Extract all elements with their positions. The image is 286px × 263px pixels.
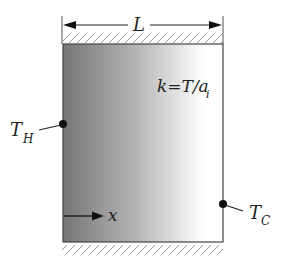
heat-conduction-diagram: L k=T/a i T H T C x bbox=[0, 0, 286, 263]
hot-point-icon bbox=[59, 120, 67, 128]
arrow-left-icon bbox=[63, 21, 76, 29]
hot-temp-label: T bbox=[10, 119, 24, 140]
equation-subscript: i bbox=[206, 88, 210, 101]
cold-temp-subscript: C bbox=[261, 214, 270, 228]
hot-temp-subscript: H bbox=[22, 132, 34, 146]
top-wall-hatch bbox=[62, 34, 223, 43]
cold-leader-line bbox=[225, 205, 243, 211]
hot-leader-line bbox=[39, 125, 61, 130]
cold-point-icon bbox=[219, 200, 227, 208]
cold-temperature-marker: T C bbox=[219, 200, 270, 228]
x-axis-label: x bbox=[108, 205, 118, 225]
equation-label: k=T/a bbox=[157, 76, 209, 96]
length-label: L bbox=[132, 14, 145, 35]
arrow-right-icon bbox=[209, 21, 222, 29]
slab bbox=[63, 44, 223, 242]
hot-temperature-marker: T H bbox=[10, 119, 67, 146]
bottom-wall-hatch bbox=[62, 245, 223, 254]
